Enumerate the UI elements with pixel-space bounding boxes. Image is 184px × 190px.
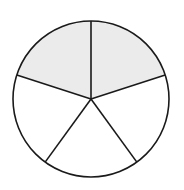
fraction-circle-diagram	[0, 0, 184, 190]
